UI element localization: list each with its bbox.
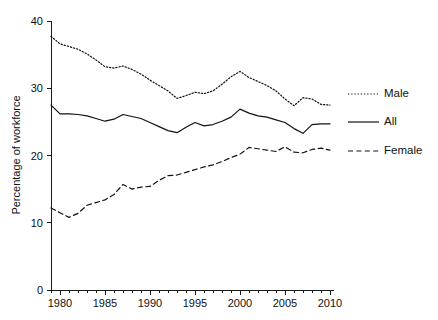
x-tick-label: 1980 <box>48 297 72 309</box>
y-tick-label: 20 <box>31 150 43 162</box>
legend-label-male: Male <box>384 87 409 99</box>
x-tick-label: 1990 <box>138 297 162 309</box>
y-tick-label: 10 <box>31 217 43 229</box>
chart-figure: 010203040 1980198519901995200020052010 M… <box>0 0 438 320</box>
x-tick-label: 1985 <box>93 297 117 309</box>
line-chart-plot: 010203040 1980198519901995200020052010 M… <box>0 0 438 320</box>
y-axis: 010203040 <box>31 15 51 296</box>
y-axis-title: Percentage of workforce <box>10 95 22 214</box>
x-axis: 1980198519901995200020052010 <box>48 290 342 309</box>
series-line-male <box>51 36 330 105</box>
y-tick-label: 0 <box>37 284 43 296</box>
y-tick-label: 40 <box>31 15 43 27</box>
series-line-all <box>51 105 330 133</box>
legend-label-all: All <box>384 115 397 127</box>
y-tick-label: 30 <box>31 82 43 94</box>
x-tick-label: 1995 <box>183 297 207 309</box>
legend-label-female: Female <box>384 144 422 156</box>
x-tick-label: 2010 <box>318 297 342 309</box>
data-series-group <box>51 36 330 217</box>
x-tick-label: 2000 <box>228 297 252 309</box>
series-line-female <box>51 147 330 218</box>
x-tick-label: 2005 <box>273 297 297 309</box>
chart-legend: MaleAllFemale <box>348 87 422 156</box>
